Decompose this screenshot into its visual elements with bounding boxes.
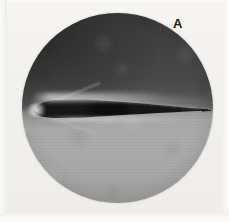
schlieren-figure: A	[0, 0, 229, 222]
window-vignette	[22, 13, 213, 203]
plate-edge-top	[0, 0, 229, 5]
plate-edge-right	[223, 0, 229, 222]
schlieren-window	[22, 13, 213, 203]
plate-edge-left	[0, 0, 7, 222]
figure-label-a: A	[173, 17, 183, 30]
plate-edge-bottom	[0, 213, 229, 222]
